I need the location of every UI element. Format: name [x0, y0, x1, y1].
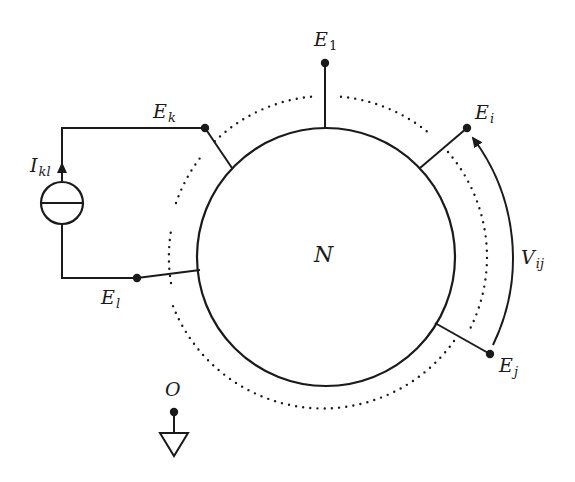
- label-ek: Ek: [153, 102, 176, 124]
- terminal-dots: [133, 59, 494, 358]
- terminal-dot-ej[interactable]: [486, 350, 494, 358]
- label-ground-o: O: [165, 380, 181, 399]
- voltage-arrow: [473, 138, 513, 345]
- ground-dot[interactable]: [170, 408, 178, 416]
- wire-ek: [205, 128, 232, 168]
- label-network-n: N: [314, 244, 333, 266]
- current-source-icon: [41, 182, 83, 224]
- network-diagram: [0, 0, 575, 482]
- label-e1: E1: [314, 30, 337, 52]
- label-ei: Ei: [475, 103, 494, 125]
- terminal-wires: [137, 63, 490, 354]
- label-voltage-vij: Vij: [521, 248, 544, 270]
- wire-el: [137, 270, 200, 278]
- ground-icon: [160, 412, 188, 456]
- label-ej: Ej: [499, 356, 518, 378]
- terminal-dot-ei[interactable]: [463, 124, 471, 132]
- wire-ej: [435, 323, 490, 354]
- terminal-dot-e1[interactable]: [321, 59, 329, 67]
- label-el: El: [101, 288, 120, 310]
- label-current-ikl: Ikl: [30, 156, 51, 178]
- wire-ei: [420, 128, 467, 168]
